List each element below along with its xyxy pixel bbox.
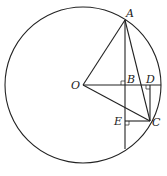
label-a: A	[125, 7, 134, 20]
right-angle-b	[121, 81, 125, 85]
segment-oa	[83, 20, 125, 85]
label-e: E	[113, 115, 122, 128]
label-b: B	[126, 73, 135, 86]
geometry-diagram: A O B D E C	[0, 0, 167, 176]
label-o: O	[71, 79, 80, 92]
right-angle-e	[125, 121, 129, 125]
label-c: C	[152, 116, 161, 129]
segment-ac	[125, 20, 150, 121]
label-d: D	[145, 73, 155, 86]
